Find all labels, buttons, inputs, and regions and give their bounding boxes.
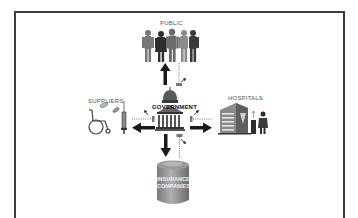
- money-flow-to-suppliers-icon: [132, 111, 155, 122]
- people-group-icon: [142, 29, 199, 62]
- hospital-staff-icon: [251, 111, 268, 134]
- medical-supplies-icon: [89, 101, 127, 134]
- money-flow-to-hospitals-icon: [190, 111, 213, 122]
- arrow-to-suppliers-icon: [132, 123, 155, 134]
- node-label-suppliers: SUPPLIERS: [88, 98, 123, 104]
- arrow-to-public-icon: [160, 63, 171, 85]
- node-label-public: PUBLIC: [160, 20, 183, 26]
- insurance-label-line-2: COMPANIES: [157, 183, 189, 190]
- arrow-to-insurance-icon: [161, 134, 172, 157]
- center-label-government: GOVERNMENT: [152, 104, 197, 110]
- node-label-insurance: INSURANCE COMPANIES: [157, 176, 189, 190]
- node-label-hospitals: HOSPITALS: [228, 95, 263, 101]
- money-flow-to-public-icon: [176, 63, 185, 86]
- syringe-icon: [121, 101, 127, 134]
- money-flow-to-insurance-icon: [177, 134, 186, 158]
- arrow-to-hospitals-icon: [190, 123, 212, 134]
- wheelchair-icon: [89, 110, 110, 134]
- insurance-label-line-1: INSURANCE: [157, 176, 189, 183]
- hospital-building-icon: [218, 103, 251, 135]
